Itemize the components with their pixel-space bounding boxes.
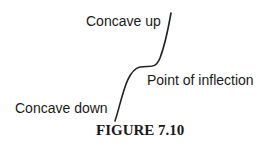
concave-up-label: Concave up [86, 14, 161, 28]
point-of-inflection-label: Point of inflection [147, 73, 254, 87]
figure-caption: FIGURE 7.10 [96, 123, 184, 138]
inflection-figure: Concave up Point of inflection Concave d… [0, 0, 277, 146]
concave-down-label: Concave down [15, 101, 108, 115]
